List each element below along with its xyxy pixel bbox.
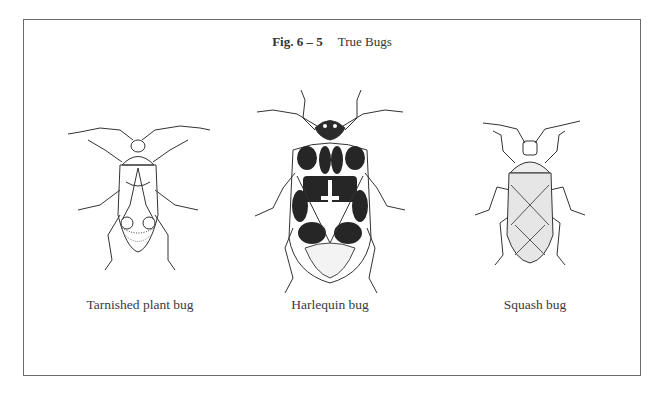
figure-caption-title: True Bugs <box>338 34 392 49</box>
caption-squash-bug: Squash bug <box>485 297 585 313</box>
figure-number: Fig. 6 – 5 <box>272 34 323 49</box>
tarnished-plant-bug-illustration <box>60 120 215 280</box>
caption-tarnished-plant-bug: Tarnished plant bug <box>70 297 210 313</box>
squash-bug-illustration <box>465 115 595 275</box>
harlequin-bug-illustration <box>245 88 415 303</box>
caption-harlequin-bug: Harlequin bug <box>270 297 390 313</box>
figure-title: Fig. 6 – 5 True Bugs <box>24 34 640 50</box>
